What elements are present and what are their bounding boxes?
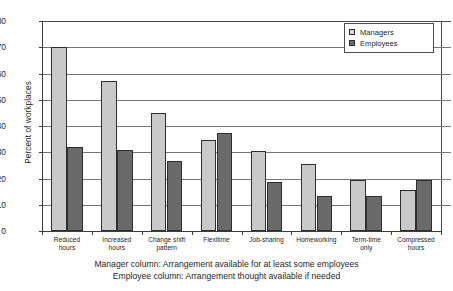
legend-label: Employees (360, 39, 398, 48)
bar-managers-1 (101, 81, 117, 231)
y-tick-label-20: 20 (0, 174, 6, 184)
x-tick-label-7: Compressedhours (379, 236, 453, 253)
legend-swatch-managers-icon (349, 29, 355, 35)
bar-employees-4 (267, 182, 283, 231)
bar-chart-figure: Percent of workplaces ManagersEmployees … (0, 0, 453, 291)
y-tick-label-60: 60 (0, 69, 6, 79)
bar-employees-1 (117, 150, 133, 231)
y-tick-label-10: 10 (0, 200, 6, 210)
bar-managers-5 (301, 164, 317, 231)
x-tick-label-line2: hours (379, 244, 453, 252)
y-tick-mark-30 (39, 152, 43, 153)
y-tick-mark-60 (39, 74, 43, 75)
x-tick-label-line1: Compressed (379, 236, 453, 244)
x-tick-mark-end (441, 231, 442, 235)
y-tick-mark-80 (39, 21, 43, 22)
y-tick-mark-40 (39, 126, 43, 127)
bar-managers-3 (201, 140, 217, 231)
legend-item-managers[interactable]: Managers (349, 27, 429, 38)
y-tick-mark-70 (39, 47, 43, 48)
y-tick-mark-10 (39, 205, 43, 206)
caption-line-2: Employee column: Arrangement thought ava… (0, 271, 453, 283)
bar-employees-0 (67, 147, 83, 231)
legend-label: Managers (360, 28, 394, 37)
x-tick-label-line2: pattern (130, 244, 204, 252)
bar-managers-6 (350, 180, 366, 231)
bar-employees-7 (416, 180, 432, 231)
y-tick-label-80: 80 (0, 16, 6, 26)
bar-managers-0 (51, 47, 67, 231)
legend-item-employees[interactable]: Employees (349, 38, 429, 49)
x-tick-mark-6 (341, 231, 342, 235)
y-axis-title: Percent of workplaces (24, 43, 33, 203)
gridline-60 (42, 74, 451, 75)
bar-employees-5 (317, 196, 333, 231)
x-tick-mark-1 (92, 231, 93, 235)
bar-managers-7 (400, 190, 416, 231)
legend-swatch-employees-icon (349, 40, 355, 46)
x-tick-mark-5 (291, 231, 292, 235)
bar-employees-6 (366, 196, 382, 231)
y-tick-label-40: 40 (0, 121, 6, 131)
gridline-80 (42, 21, 451, 22)
x-tick-mark-2 (142, 231, 143, 235)
x-tick-mark-3 (192, 231, 193, 235)
y-tick-label-70: 70 (0, 42, 6, 52)
y-tick-label-0: 0 (0, 226, 6, 236)
chart-legend: ManagersEmployees (344, 23, 434, 53)
bar-employees-2 (167, 161, 183, 231)
bar-employees-3 (217, 133, 233, 231)
y-tick-label-50: 50 (0, 95, 6, 105)
y-tick-mark-50 (39, 100, 43, 101)
x-tick-mark-4 (242, 231, 243, 235)
bar-managers-4 (251, 151, 267, 231)
x-tick-mark-7 (391, 231, 392, 235)
plot-area (42, 21, 441, 231)
y-tick-label-30: 30 (0, 147, 6, 157)
y-tick-mark-20 (39, 179, 43, 180)
bar-managers-2 (151, 113, 167, 231)
x-tick-mark-0 (42, 231, 43, 235)
caption-line-1: Manager column: Arrangement available fo… (0, 259, 453, 271)
